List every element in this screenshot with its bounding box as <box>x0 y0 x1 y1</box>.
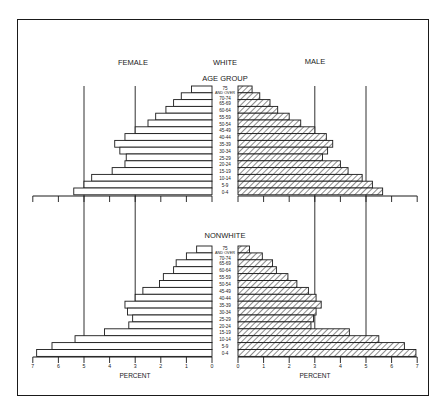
bar-male-10-14 <box>238 336 379 343</box>
age-label: 60-64 <box>219 268 231 273</box>
age-label: 45-49 <box>219 128 231 133</box>
bar-female-10-14 <box>75 336 212 343</box>
tick-label: 5 <box>365 363 368 369</box>
tick-label: 6 <box>57 363 60 369</box>
bar-male-70-74 <box>238 253 262 260</box>
bar-male-65-69 <box>238 100 270 107</box>
female-label: FEMALE <box>118 58 148 67</box>
bar-male-0-4 <box>238 188 383 195</box>
bar-male-45-49 <box>238 127 315 134</box>
age-label: 25-29 <box>219 156 231 161</box>
bar-female-5-9 <box>84 181 212 188</box>
population-pyramid-figure: FEMALE WHITE MALE AGE GROUP NONWHITE PER… <box>0 0 445 414</box>
age-label: 60-64 <box>219 108 231 113</box>
bar-male-50-54 <box>238 281 297 288</box>
tick-label: 0 <box>237 363 240 369</box>
bar-male-5-9 <box>238 181 372 188</box>
tick-label: 0 <box>211 363 214 369</box>
age-label: 70-74 <box>219 96 231 101</box>
age-label: 50-54 <box>219 282 231 287</box>
bar-female-25-29 <box>126 154 212 161</box>
tick-label: 5 <box>83 363 86 369</box>
tick-label: 6 <box>390 363 393 369</box>
age-label: 5-9 <box>222 344 229 349</box>
age-label: 25-29 <box>219 317 231 322</box>
tick-label: 1 <box>262 363 265 369</box>
percent-label-left: PERCENT <box>119 372 150 379</box>
bar-male-55-59 <box>238 113 289 120</box>
age-label: 50-54 <box>219 122 231 127</box>
bar-male-30-34 <box>238 308 316 315</box>
bar-female-45-49 <box>143 287 212 294</box>
bar-male-60-64 <box>238 267 276 274</box>
tick-label: 1 <box>185 363 188 369</box>
percent-label-right: PERCENT <box>299 372 330 379</box>
bar-female-75-and-over <box>197 246 212 253</box>
bar-female-20-24 <box>125 161 212 168</box>
bar-male-75-and-over <box>238 246 250 253</box>
nonwhite-title: NONWHITE <box>205 231 246 240</box>
bar-male-5-9 <box>238 343 404 350</box>
age-label: 55-59 <box>219 115 231 120</box>
tick-label: 7 <box>31 363 34 369</box>
bar-male-30-34 <box>238 147 328 154</box>
age-label: 30-34 <box>219 310 231 315</box>
bar-female-15-19 <box>104 329 212 336</box>
bar-female-50-54 <box>160 281 212 288</box>
bar-male-35-39 <box>238 140 333 147</box>
bar-male-0-4 <box>238 350 416 357</box>
age-label: 5-9 <box>222 183 229 188</box>
male-label: MALE <box>305 57 325 66</box>
bar-female-20-24 <box>129 322 212 329</box>
bar-female-60-64 <box>166 106 212 113</box>
bar-male-25-29 <box>238 315 314 322</box>
age-label: 30-34 <box>219 149 231 154</box>
age-label: 45-49 <box>219 289 231 294</box>
age-label: 10-14 <box>219 337 231 342</box>
age-label: 35-39 <box>219 142 231 147</box>
bar-female-30-34 <box>120 147 212 154</box>
age-label: AND OVER <box>215 251 235 255</box>
age-label: 15-19 <box>219 330 231 335</box>
bar-female-50-54 <box>148 120 212 127</box>
bar-female-40-44 <box>125 134 212 141</box>
age-label: 0-4 <box>222 190 229 195</box>
bar-female-60-64 <box>174 267 212 274</box>
bar-female-0-4 <box>74 188 212 195</box>
bar-female-15-19 <box>112 168 212 175</box>
bar-male-45-49 <box>238 287 308 294</box>
age-label: 10-14 <box>219 176 231 181</box>
age-label: 20-24 <box>219 162 231 167</box>
age-label: 15-19 <box>219 169 231 174</box>
bar-male-55-59 <box>238 274 288 281</box>
bar-male-20-24 <box>238 161 340 168</box>
bar-male-50-54 <box>238 120 301 127</box>
bar-female-40-44 <box>135 294 212 301</box>
bar-female-75-and-over <box>192 86 212 93</box>
bar-male-40-44 <box>238 294 316 301</box>
bar-male-25-29 <box>238 154 322 161</box>
tick-label: 3 <box>313 363 316 369</box>
bar-female-70-74 <box>181 93 212 100</box>
age-label: 35-39 <box>219 303 231 308</box>
bar-female-45-49 <box>135 127 212 134</box>
bar-male-10-14 <box>238 174 362 181</box>
bar-male-65-69 <box>238 260 273 267</box>
bar-male-35-39 <box>238 301 321 308</box>
white-title: WHITE <box>213 58 237 67</box>
bar-male-75-and-over <box>238 86 252 93</box>
bar-male-70-74 <box>238 93 260 100</box>
bar-female-25-29 <box>133 315 212 322</box>
bar-female-55-59 <box>156 113 212 120</box>
bar-female-55-59 <box>163 274 212 281</box>
bar-male-20-24 <box>238 322 311 329</box>
bar-female-10-14 <box>92 174 212 181</box>
age-label: 55-59 <box>219 275 231 280</box>
age-label: 65-69 <box>219 261 231 266</box>
age-label: 70-74 <box>219 256 231 261</box>
bar-male-15-19 <box>238 329 349 336</box>
tick-label: 2 <box>288 363 291 369</box>
bar-male-15-19 <box>238 168 348 175</box>
bar-male-60-64 <box>238 106 278 113</box>
age-label: 65-69 <box>219 101 231 106</box>
